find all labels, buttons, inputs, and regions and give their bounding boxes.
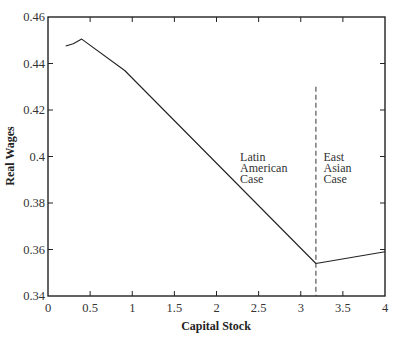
plot-area: 00.511.522.533.540.340.360.380.40.420.44… [23, 10, 389, 315]
chart: 00.511.522.533.540.340.360.380.40.420.44… [0, 0, 398, 343]
y-tick-label: 0.36 [23, 243, 45, 257]
y-tick-label: 0.42 [23, 103, 45, 117]
y-axis-title: Real Wages [3, 126, 17, 186]
y-tick-label: 0.38 [23, 196, 45, 210]
y-tick-label: 0.44 [23, 57, 46, 71]
x-tick-label: 2.5 [251, 301, 267, 315]
x-tick-label: 0.5 [82, 301, 98, 315]
x-tick-label: 0 [45, 301, 51, 315]
x-tick-label: 4 [382, 301, 389, 315]
x-tick-label: 1.5 [167, 301, 183, 315]
x-tick-label: 2 [213, 301, 219, 315]
annotation: EastAsianCase [323, 150, 351, 186]
x-tick-label: 3 [298, 301, 304, 315]
y-tick-label: 0.34 [23, 289, 46, 303]
x-axis-title: Capital Stock [181, 319, 251, 333]
x-tick-label: 1 [129, 301, 135, 315]
annotation: LatinAmericanCase [240, 150, 287, 186]
x-tick-label: 3.5 [335, 301, 351, 315]
y-tick-label: 0.46 [23, 10, 45, 24]
y-tick-label: 0.4 [29, 150, 45, 164]
